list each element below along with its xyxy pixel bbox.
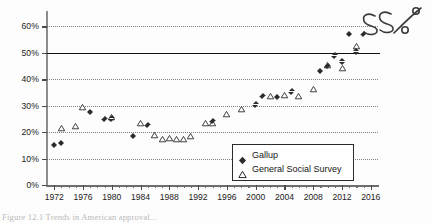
- x-tick-minor: [335, 185, 336, 188]
- y-tick: [42, 26, 47, 27]
- y-tick: [42, 159, 47, 160]
- x-tick-minor: [126, 185, 127, 188]
- y-tick: [42, 132, 47, 133]
- y-axis-label: 60%: [21, 21, 39, 31]
- x-tick-minor: [292, 185, 293, 188]
- handwritten-annotation-55-percent: [358, 3, 430, 45]
- data-point: [188, 139, 194, 145]
- data-point: [317, 65, 323, 71]
- x-axis-label: 1980: [102, 192, 121, 202]
- x-tick-minor: [105, 185, 106, 188]
- x-tick-major: [54, 185, 55, 190]
- x-tick-major: [284, 185, 285, 190]
- x-tick-minor: [220, 185, 221, 188]
- figure-caption: Figure 12.1 Trends in American approval.…: [2, 212, 242, 223]
- x-tick-minor: [306, 185, 307, 188]
- data-point: [325, 60, 331, 66]
- data-point: [145, 119, 151, 125]
- x-tick-minor: [69, 185, 70, 188]
- x-tick-minor: [119, 185, 120, 188]
- data-point: [159, 142, 165, 148]
- x-axis-label: 1984: [131, 192, 150, 202]
- data-point: [289, 85, 295, 91]
- reference-line-50-percent: [45, 53, 380, 55]
- y-axis-label: 10%: [21, 154, 39, 164]
- x-tick-minor: [320, 185, 321, 188]
- data-point: [152, 138, 158, 144]
- data-point: [353, 45, 359, 51]
- x-axis-label: 2000: [246, 192, 265, 202]
- data-point: [274, 91, 280, 97]
- data-point: [238, 112, 244, 118]
- data-point: [181, 142, 187, 148]
- data-point: [339, 71, 345, 77]
- x-tick-minor: [205, 185, 206, 188]
- x-tick-major: [83, 185, 84, 190]
- chart-legend[interactable]: Gallup General Social Survey: [232, 144, 354, 181]
- x-tick-minor: [97, 185, 98, 188]
- open-triangle-icon: [238, 165, 247, 174]
- x-tick-minor: [356, 185, 357, 188]
- legend-label-gallup: Gallup: [252, 150, 278, 160]
- data-point: [202, 126, 208, 132]
- y-axis-label: 20%: [21, 127, 39, 137]
- x-tick-minor: [248, 185, 249, 188]
- x-tick-minor: [213, 185, 214, 188]
- x-axis-label: 1996: [217, 192, 236, 202]
- x-tick-minor: [61, 185, 62, 188]
- data-point: [51, 139, 57, 145]
- data-point: [332, 49, 338, 55]
- y-tick: [42, 106, 47, 107]
- x-axis-label: 1972: [45, 192, 64, 202]
- legend-item-gallup[interactable]: Gallup: [238, 148, 348, 162]
- data-point: [224, 117, 230, 123]
- data-point: [210, 115, 216, 121]
- data-point: [267, 99, 273, 105]
- data-point: [102, 113, 108, 119]
- x-tick-minor: [177, 185, 178, 188]
- x-tick-minor: [76, 185, 77, 188]
- y-axis-label: 50%: [21, 48, 39, 58]
- x-tick-minor: [90, 185, 91, 188]
- y-axis-label: 0%: [26, 180, 39, 190]
- data-point: [260, 90, 266, 96]
- gridline-30: [47, 106, 378, 107]
- x-tick-minor: [270, 185, 271, 188]
- x-tick-minor: [349, 185, 350, 188]
- x-tick-major: [256, 185, 257, 190]
- x-tick-major: [313, 185, 314, 190]
- data-point: [339, 55, 345, 61]
- data-point: [87, 106, 93, 112]
- data-point: [80, 110, 86, 116]
- x-tick-minor: [234, 185, 235, 188]
- gridline-60: [47, 26, 378, 27]
- x-tick-major: [198, 185, 199, 190]
- x-tick-major: [371, 185, 372, 190]
- x-tick-minor: [148, 185, 149, 188]
- legend-item-general-social-survey[interactable]: General Social Survey: [238, 162, 348, 176]
- x-tick-minor: [162, 185, 163, 188]
- y-axis-label: 30%: [21, 101, 39, 111]
- x-tick-major: [342, 185, 343, 190]
- x-axis-label: 2008: [304, 192, 323, 202]
- data-point: [58, 137, 64, 143]
- data-point: [138, 126, 144, 132]
- y-tick: [42, 79, 47, 80]
- y-tick: [42, 185, 47, 186]
- x-axis-label: 2004: [275, 192, 294, 202]
- y-tick: [42, 53, 47, 54]
- chart-screenshot: 0%10%20%30%40%50%60% 1972197619801984198…: [0, 0, 433, 223]
- x-axis-label: 2016: [361, 192, 380, 202]
- filled-diamond-icon: [238, 151, 247, 160]
- x-axis-label: 2012: [332, 192, 351, 202]
- legend-label-general-social-survey: General Social Survey: [252, 164, 342, 174]
- gridline-40: [47, 79, 378, 80]
- data-point: [310, 92, 316, 98]
- data-point: [253, 98, 259, 104]
- x-tick-major: [112, 185, 113, 190]
- x-tick-major: [141, 185, 142, 190]
- x-axis-label: 1976: [73, 192, 92, 202]
- x-tick-minor: [277, 185, 278, 188]
- x-tick-minor: [263, 185, 264, 188]
- x-tick-minor: [155, 185, 156, 188]
